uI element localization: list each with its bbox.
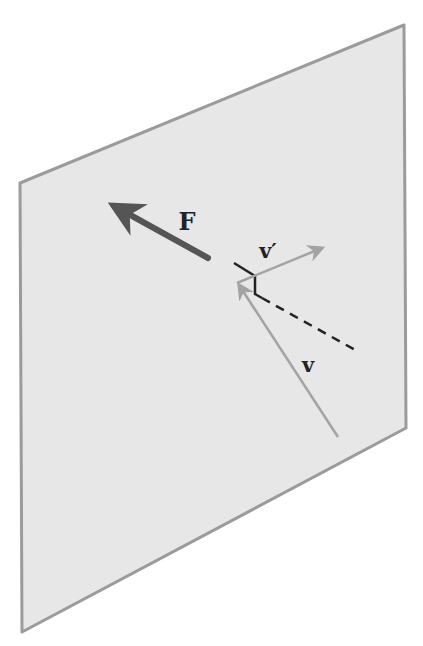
force-label: F (178, 207, 195, 236)
outgoing-velocity-label: v′ (258, 238, 277, 263)
incoming-velocity-label: v (301, 352, 315, 377)
collision-diagram: F v′ v (0, 0, 423, 646)
wall-plane (20, 25, 406, 632)
